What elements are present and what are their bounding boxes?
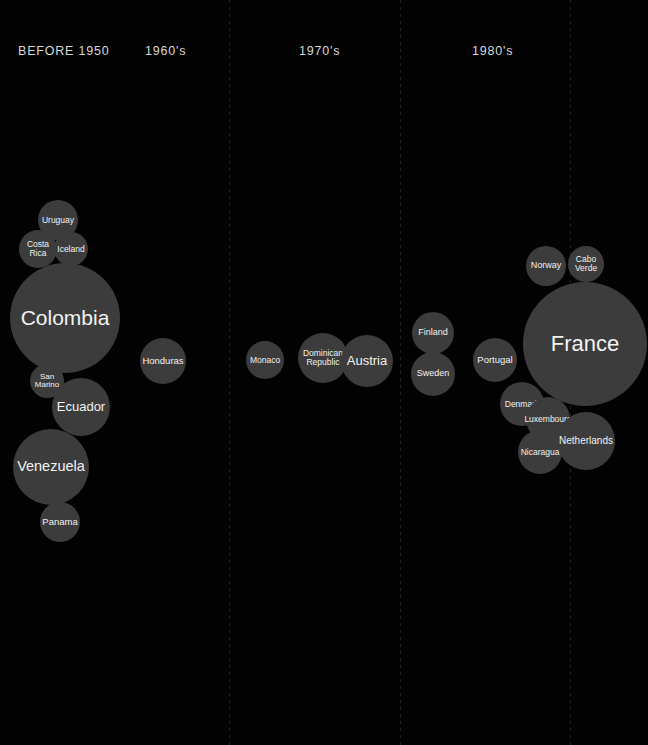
bubble-label: Austria	[346, 354, 388, 368]
era-divider-1	[400, 0, 401, 745]
bubble-cabo-verde[interactable]: Cabo Verde	[568, 246, 604, 282]
bubble-label: Norway	[530, 261, 563, 270]
bubble-chart-canvas: BEFORE 19501960's1970's1980's UruguayCos…	[0, 0, 648, 745]
bubble-label: Uruguay	[41, 216, 75, 225]
bubble-label: Honduras	[141, 356, 184, 366]
bubble-norway[interactable]: Norway	[526, 246, 566, 286]
bubble-austria[interactable]: Austria	[341, 335, 393, 387]
bubble-label: Nicaragua	[520, 448, 561, 457]
bubble-panama[interactable]: Panama	[40, 502, 80, 542]
bubble-label: Finland	[417, 328, 449, 337]
bubble-finland[interactable]: Finland	[412, 312, 454, 354]
bubble-label: Ecuador	[56, 400, 106, 414]
bubble-ecuador[interactable]: Ecuador	[52, 378, 110, 436]
bubble-label: Venezuela	[16, 459, 86, 474]
bubble-label: Dominican Republic	[302, 349, 344, 367]
bubble-label: Netherlands	[558, 436, 614, 447]
bubble-label: Iceland	[56, 245, 85, 254]
bubble-monaco[interactable]: Monaco	[246, 341, 284, 379]
bubble-france[interactable]: France	[523, 282, 647, 406]
bubble-honduras[interactable]: Honduras	[140, 338, 186, 384]
bubble-venezuela[interactable]: Venezuela	[13, 429, 89, 505]
bubble-nicaragua[interactable]: Nicaragua	[518, 430, 562, 474]
bubble-sweden[interactable]: Sweden	[411, 352, 455, 396]
bubble-label: Panama	[41, 517, 78, 527]
era-label-0: BEFORE 1950	[18, 44, 109, 58]
bubble-label: France	[550, 332, 620, 355]
bubble-label: San Marino	[34, 373, 60, 390]
bubble-portugal[interactable]: Portugal	[473, 338, 517, 382]
bubble-label: Colombia	[20, 307, 111, 329]
bubble-label: Cabo Verde	[574, 255, 598, 273]
bubble-costa-rica[interactable]: Costa Rica	[19, 230, 57, 268]
bubble-label: Portugal	[476, 355, 513, 365]
bubble-label: Costa Rica	[26, 240, 50, 258]
era-divider-0	[229, 0, 230, 745]
bubble-label: Monaco	[249, 356, 281, 365]
bubble-netherlands[interactable]: Netherlands	[557, 412, 615, 470]
bubble-colombia[interactable]: Colombia	[10, 263, 120, 373]
era-label-1: 1960's	[145, 44, 186, 58]
era-label-2: 1970's	[299, 44, 340, 58]
era-label-3: 1980's	[472, 44, 513, 58]
bubble-label: Sweden	[416, 369, 451, 378]
bubble-iceland[interactable]: Iceland	[54, 232, 88, 266]
